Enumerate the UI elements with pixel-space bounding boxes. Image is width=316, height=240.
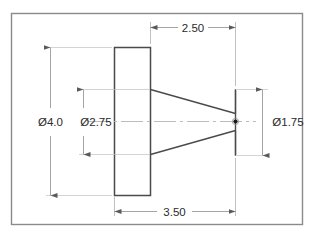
drawing-sheet: 2.50 Ø4.0 Ø2.75 Ø1.75 3.50 — [0, 0, 316, 240]
leader-dot-marker — [233, 119, 237, 123]
dim-label-cone-tip-diameter: Ø1.75 — [272, 116, 303, 128]
dim-label-flange-diameter: Ø4.0 — [38, 116, 63, 128]
dim-label-cone-length: 2.50 — [182, 22, 204, 34]
dim-label-cone-base-diameter: Ø2.75 — [80, 116, 111, 128]
dim-label-overall-length: 3.50 — [163, 206, 185, 218]
technical-drawing-canvas: 2.50 Ø4.0 Ø2.75 Ø1.75 3.50 — [0, 0, 316, 240]
